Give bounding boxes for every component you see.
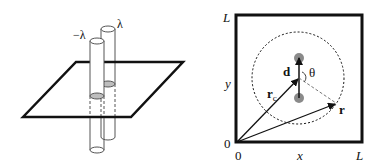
vector-r — [237, 104, 335, 142]
label-L-top: L — [222, 10, 230, 25]
dashed-circle — [252, 32, 344, 124]
angle-arc — [302, 72, 306, 82]
vortex-plane-illustration: −λ λ — [23, 17, 183, 153]
label-L-right: L — [355, 148, 363, 163]
label-origin-x: 0 — [235, 148, 242, 163]
cylinder-negative — [90, 38, 104, 153]
label-negative-lambda: −λ — [73, 28, 86, 42]
axis-label-y: y — [223, 76, 231, 91]
axis-label-x: x — [296, 148, 303, 163]
dashed-offset — [299, 78, 336, 103]
label-origin-y: 0 — [224, 136, 231, 151]
label-r: r — [339, 102, 345, 117]
diagram-canvas: −λ λ L L 0 0 x y d θ rc r — [0, 0, 382, 167]
label-theta: θ — [309, 65, 315, 80]
label-d: d — [283, 64, 291, 79]
label-rc-sub: c — [273, 93, 277, 103]
label-rc: rc — [267, 86, 277, 103]
label-positive-lambda: λ — [117, 17, 123, 31]
domain-square-illustration: L L 0 0 x y d θ rc r — [222, 10, 363, 163]
